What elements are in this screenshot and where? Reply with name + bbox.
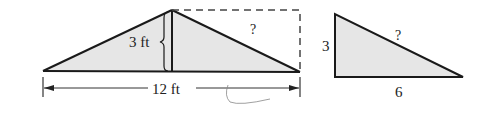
height-label: 3 ft: [129, 34, 150, 50]
left-figure: 3 ft ? 12 ft: [43, 10, 300, 103]
right-figure: 3 ? 6: [322, 14, 463, 100]
arrow-left-icon: [44, 85, 54, 91]
diagram-canvas: 3 ft ? 12 ft 3 ? 6: [0, 0, 489, 119]
arrow-right-icon: [289, 85, 299, 91]
right-vertical-label: 3: [322, 38, 330, 54]
right-base-label: 6: [395, 84, 403, 100]
right-triangle: [335, 14, 463, 77]
right-hypotenuse-label: ?: [395, 28, 401, 43]
left-hypotenuse-label: ?: [250, 22, 256, 37]
base-length-label: 12 ft: [152, 81, 181, 97]
